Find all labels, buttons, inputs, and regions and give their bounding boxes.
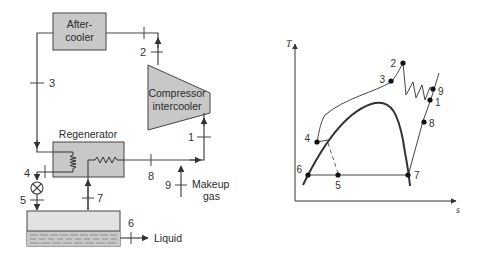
point-3 — [388, 78, 393, 83]
makeup-label-1: Makeup — [192, 178, 230, 190]
point-4-label: 4 — [304, 133, 310, 144]
liquid-label: Liquid — [154, 232, 182, 244]
point-5 — [335, 172, 340, 177]
makeup-label-2: gas — [203, 190, 220, 202]
t-axis-label: T — [286, 38, 293, 49]
throttle-dashed — [328, 143, 339, 176]
stream-7: 7 — [82, 180, 103, 210]
saturation-dome — [303, 103, 410, 186]
separator-tank — [27, 211, 120, 246]
s-axis-label: s — [456, 204, 460, 215]
point-1 — [427, 97, 432, 102]
aftercooler-label-1: After- — [67, 18, 93, 30]
point-2 — [400, 60, 405, 65]
tank-liquid — [27, 231, 120, 246]
point-9-label: 9 — [438, 86, 444, 97]
state-7-label: 7 — [97, 192, 103, 204]
compressor-label-1: Compressor — [148, 87, 206, 99]
compressor: Compressor intercooler — [148, 65, 210, 130]
point-8 — [421, 119, 426, 124]
state-5-label: 5 — [20, 194, 26, 206]
throttle-valve-icon — [31, 182, 43, 194]
stream-3: 3 — [30, 33, 55, 152]
point-3-label: 3 — [379, 74, 385, 85]
regenerator-label: Regenerator — [59, 128, 118, 140]
point-6 — [305, 172, 310, 177]
point-7 — [405, 172, 410, 177]
linde-hampson-figure: After- cooler 2 3 Compressor intercooler… — [0, 0, 482, 256]
stream-2: 2 — [106, 27, 163, 65]
point-9 — [430, 86, 435, 91]
state-points — [305, 60, 435, 177]
point-1-label: 1 — [435, 97, 441, 108]
point-2-label: 2 — [390, 58, 396, 69]
aftercooler: After- cooler — [53, 13, 106, 50]
stream-3-line — [37, 33, 53, 152]
state-1-label: 1 — [188, 131, 194, 143]
regenerator: Regenerator — [37, 128, 124, 210]
point-6-label: 6 — [296, 164, 302, 175]
compression-zigzag — [403, 63, 430, 100]
point-8-label: 8 — [429, 118, 435, 129]
point-5-label: 5 — [335, 180, 341, 191]
makeup-gas: 9 Makeup gas — [165, 166, 230, 202]
schematic: After- cooler 2 3 Compressor intercooler… — [20, 13, 230, 246]
state-9-label: 9 — [165, 179, 171, 191]
state-6-label: 6 — [128, 217, 134, 229]
ts-diagram: T s 2 3 9 1 8 — [286, 38, 460, 215]
compressor-label-2: intercooler — [152, 100, 202, 112]
aftercooler-label-2: cooler — [65, 31, 94, 43]
process-2-3-4 — [317, 63, 403, 142]
state-8-label: 8 — [148, 170, 154, 182]
point-7-label: 7 — [414, 170, 420, 181]
point-4 — [314, 139, 319, 144]
state-2-label: 2 — [140, 46, 146, 58]
stream-2-line — [106, 33, 158, 65]
liquid-out: 6 Liquid — [120, 217, 182, 244]
state-3-label: 3 — [49, 77, 55, 89]
state-4-label: 4 — [24, 167, 30, 179]
